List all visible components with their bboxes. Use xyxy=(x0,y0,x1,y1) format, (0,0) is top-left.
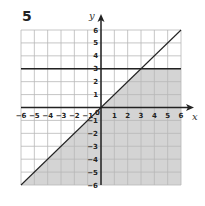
y-axis-label: y xyxy=(88,10,95,21)
x-tick-label: −5 xyxy=(29,112,40,120)
y-tick-label: 1 xyxy=(93,91,98,99)
x-tick-label: 6 xyxy=(179,112,184,120)
x-tick-label: 4 xyxy=(152,112,157,120)
y-tick-label: 6 xyxy=(93,27,98,35)
x-axis-label: x xyxy=(192,111,198,122)
y-tick-label: −2 xyxy=(87,130,98,138)
y-tick-label: 4 xyxy=(93,52,98,60)
x-tick-label: −2 xyxy=(69,112,80,120)
x-tick-label: 5 xyxy=(165,112,170,120)
y-tick-label: −5 xyxy=(87,169,98,177)
y-tick-label: 3 xyxy=(93,65,98,73)
x-tick-label: 3 xyxy=(139,112,144,120)
y-tick-label: −3 xyxy=(87,143,98,151)
origin-label: 0 xyxy=(95,109,100,117)
x-tick-label: 2 xyxy=(125,112,130,120)
y-tick-label: −6 xyxy=(87,182,98,190)
x-tick-label: 1 xyxy=(112,112,117,120)
x-tick-label: −4 xyxy=(42,112,53,120)
y-tick-label: 5 xyxy=(93,39,98,47)
y-tick-label: 2 xyxy=(93,78,98,86)
y-tick-label: −4 xyxy=(87,156,98,164)
inequality-graph: xy−6−5−4−3−2−10123456−6−5−4−3−2−1123456 xyxy=(0,0,205,206)
x-tick-label: −3 xyxy=(56,112,67,120)
y-tick-label: −1 xyxy=(87,117,98,125)
x-tick-label: −6 xyxy=(16,112,27,120)
